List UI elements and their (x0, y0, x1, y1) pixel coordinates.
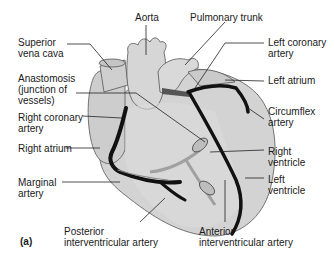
label-anterior-interventricular-artery: Anterior interventricular artery (199, 226, 293, 248)
panel-label: (a) (20, 236, 32, 247)
label-aorta: Aorta (135, 12, 159, 23)
label-pulmonary-trunk: Pulmonary trunk (190, 12, 263, 23)
label-left-coronary-artery: Left coronary artery (268, 37, 326, 59)
label-posterior-interventricular-artery: Posterior interventricular artery (64, 226, 158, 248)
label-right-ventricle: Right ventricle (268, 146, 305, 168)
label-marginal-artery: Marginal artery (18, 177, 56, 199)
label-right-atrium: Right atrium (18, 143, 72, 154)
label-superior-vena-cava: Superior vena cava (18, 37, 64, 59)
label-circumflex-artery: Circumflex artery (268, 106, 315, 128)
heart-diagram: Aorta Pulmonary trunk Superior vena cava… (0, 0, 335, 261)
label-left-ventricle: Left ventricle (268, 174, 305, 196)
label-left-atrium: Left atrium (268, 75, 315, 86)
label-anastomosis: Anastomosis (junction of vessels) (18, 73, 75, 106)
label-right-coronary-artery: Right coronary artery (18, 112, 83, 134)
